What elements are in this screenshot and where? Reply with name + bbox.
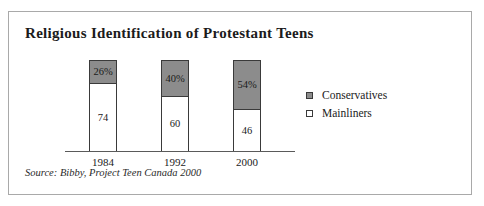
legend-item-label: Conservatives [322, 89, 387, 101]
source-note: Source: Bibby, Project Teen Canada 2000 [25, 167, 201, 178]
bar-segment-label: 60 [162, 119, 188, 130]
bar-segment-label: 74 [90, 112, 116, 123]
chart-legend: Conservatives Mainliners [306, 86, 387, 122]
bar-segment-label: 26% [90, 67, 116, 78]
bar-segment-label: 54% [234, 80, 260, 91]
x-axis-tick-label: 2000 [219, 156, 275, 168]
chart-frame: Religious Identification of Protestant T… [8, 11, 472, 195]
stacked-bar: 26% 74 [89, 60, 117, 152]
bar-segment-label: 40% [162, 73, 188, 84]
bar-group-1992[interactable]: 40% 60 [161, 60, 189, 152]
bar-segment-conservatives[interactable]: 26% [89, 60, 117, 84]
chart-title: Religious Identification of Protestant T… [25, 25, 314, 42]
bar-segment-conservatives[interactable]: 40% [161, 60, 189, 97]
bar-segment-mainliners[interactable]: 74 [89, 84, 117, 152]
x-axis-line [65, 151, 295, 152]
bar-segment-mainliners[interactable]: 60 [161, 97, 189, 152]
bar-segment-conservatives[interactable]: 54% [233, 60, 261, 110]
stacked-bar: 54% 46 [233, 60, 261, 152]
legend-swatch-icon [306, 110, 313, 117]
legend-item-label: Mainliners [322, 107, 372, 119]
legend-swatch-icon [306, 92, 313, 99]
bar-group-2000[interactable]: 54% 46 [233, 60, 261, 152]
plot-area: 26% 74 40% 60 54% [65, 48, 295, 152]
stacked-bar: 40% 60 [161, 60, 189, 152]
legend-item-mainliners[interactable]: Mainliners [306, 104, 387, 122]
legend-item-conservatives[interactable]: Conservatives [306, 86, 387, 104]
bar-group-1984[interactable]: 26% 74 [89, 60, 117, 152]
bar-segment-label: 46 [234, 125, 260, 136]
bar-segment-mainliners[interactable]: 46 [233, 110, 261, 152]
